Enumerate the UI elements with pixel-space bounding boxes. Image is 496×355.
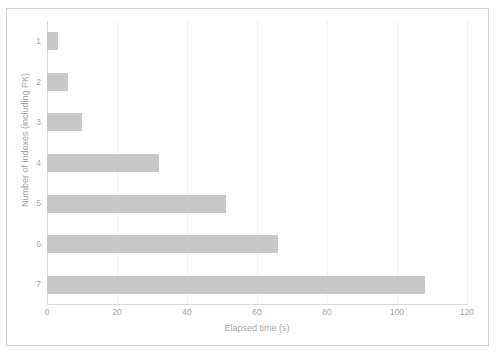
x-axis-tick-label: 120 <box>460 307 474 317</box>
bar-row <box>47 143 159 184</box>
bar-row <box>47 264 425 305</box>
x-axis-tick-label: 80 <box>322 307 331 317</box>
x-axis-tick-label: 60 <box>252 307 261 317</box>
chart-frame: 1234567 020406080100120 Elapsed time (s)… <box>6 8 489 346</box>
bar <box>47 154 159 172</box>
x-axis-title: Elapsed time (s) <box>47 323 467 333</box>
bar-series <box>47 21 467 305</box>
bar <box>47 32 58 50</box>
bar-row <box>47 62 68 103</box>
x-axis-tick-label: 40 <box>182 307 191 317</box>
y-axis-tick-label: 1 <box>36 21 41 62</box>
bar <box>47 195 226 213</box>
y-axis-title: Number of indexes (including PK) <box>20 60 30 220</box>
bar <box>47 113 82 131</box>
plot-area <box>47 21 467 305</box>
x-axis-tick-label: 100 <box>390 307 404 317</box>
y-axis-tick-label: 3 <box>36 102 41 143</box>
bar <box>47 276 425 294</box>
x-axis-tick-label: 0 <box>45 307 50 317</box>
bar-row <box>47 21 58 62</box>
y-axis-tick-label: 6 <box>36 224 41 265</box>
gridline <box>467 21 468 305</box>
x-axis-tick-labels: 020406080100120 <box>47 307 467 321</box>
y-axis-tick-label: 4 <box>36 143 41 184</box>
x-axis-tick-label: 20 <box>112 307 121 317</box>
bar-row <box>47 102 82 143</box>
bar-row <box>47 224 278 265</box>
bar-row <box>47 183 226 224</box>
chart-screenshot: 1234567 020406080100120 Elapsed time (s)… <box>0 0 496 355</box>
y-axis-tick-label: 5 <box>36 183 41 224</box>
bar <box>47 235 278 253</box>
bar <box>47 73 68 91</box>
y-axis-tick-label: 7 <box>36 264 41 305</box>
y-axis-tick-label: 2 <box>36 62 41 103</box>
